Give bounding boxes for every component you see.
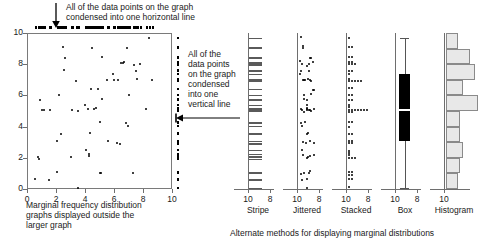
stacked-point (351, 171, 353, 173)
stacked-point (348, 80, 350, 82)
scatter-point (117, 79, 119, 81)
right-rug-tick (177, 56, 179, 58)
scatter-point (101, 56, 103, 58)
scatter-point (100, 172, 102, 174)
figure-root: All of the data points on the graph cond… (0, 0, 486, 249)
stripe-mark (249, 134, 262, 135)
y-tick-label: 8 (0, 58, 23, 68)
jittered-point (304, 121, 306, 123)
panel-tick-label: 10 (385, 194, 405, 204)
jittered-point (302, 47, 304, 49)
panel-content-stacked (347, 33, 387, 189)
histogram-bar (446, 64, 475, 80)
scatter-point (43, 109, 45, 111)
stacked-point (348, 104, 350, 106)
panel-axis-tick (297, 189, 298, 193)
y-tick-label: 0 (0, 183, 23, 193)
x-tick-label: 10 (162, 194, 182, 204)
stripe-mark (249, 141, 262, 142)
stacked-point (348, 140, 350, 142)
top-rug-tick (108, 26, 110, 29)
stacked-point (360, 80, 362, 82)
stacked-point (348, 78, 350, 80)
stacked-point (351, 109, 353, 111)
panel-tick-label: 8 (260, 194, 280, 204)
scatter-point (125, 122, 127, 124)
stacked-point (351, 178, 353, 180)
scatter-point (85, 149, 87, 151)
scatter-point (91, 47, 93, 49)
scatter-point (133, 64, 135, 66)
stacked-point (348, 152, 350, 154)
panel-tick-label: 8 (407, 194, 427, 204)
jittered-point (302, 45, 304, 47)
panel-axis-tick (346, 189, 347, 193)
top-rug-tick (152, 26, 154, 29)
stripe-mark (249, 188, 262, 189)
stacked-point (348, 94, 350, 96)
scatter-point (107, 140, 109, 142)
histogram-bar (446, 95, 478, 111)
histogram-bar (446, 80, 463, 96)
right-rug-tick (177, 153, 179, 155)
scatter-point (63, 69, 65, 71)
stacked-point (351, 111, 353, 113)
scatter-point (84, 104, 86, 106)
scatter-point (123, 61, 125, 63)
jittered-point (303, 172, 305, 174)
top-rug-tick (102, 26, 104, 29)
box-whisker-cap (400, 188, 409, 189)
top-rug-tick (44, 26, 46, 29)
stacked-point (348, 99, 350, 101)
jittered-point (300, 173, 302, 175)
scatter-point (87, 108, 89, 110)
scatter-point (34, 178, 36, 180)
panel-horizontal-axis (430, 189, 470, 190)
scatter-point (77, 187, 79, 189)
scatter-point (89, 132, 91, 134)
y-tick-label: 4 (0, 121, 23, 131)
stacked-point (351, 56, 353, 58)
stripe-mark (249, 95, 262, 96)
scatter-point (148, 37, 150, 39)
right-rug-tick (177, 140, 179, 142)
histogram-bar (446, 158, 460, 174)
jittered-point (305, 142, 307, 144)
y-tick-label: 2 (0, 152, 23, 162)
jittered-point (313, 154, 315, 156)
jittered-point (301, 179, 303, 181)
panel-tick-label: 8 (358, 194, 378, 204)
scatter-point (39, 99, 41, 101)
right-rug-tick (177, 98, 179, 100)
box-body (399, 74, 410, 141)
panel-tick-label: 8 (309, 194, 329, 204)
scatter-point (56, 171, 58, 173)
top-rug-tick (149, 26, 151, 29)
stacked-point (348, 56, 350, 58)
top-rug-tick (140, 26, 142, 29)
jittered-point (308, 63, 310, 65)
jittered-point (301, 63, 303, 65)
stripe-mark (249, 159, 262, 160)
panel-horizontal-axis (332, 189, 372, 190)
scatter-point (95, 107, 97, 109)
right-rug-tick (177, 69, 179, 71)
stripe-mark (249, 70, 262, 71)
jittered-point (306, 99, 308, 101)
right-rug-tick (177, 149, 179, 151)
stacked-point (351, 174, 353, 176)
x-tick-mark (172, 189, 173, 193)
panel-horizontal-axis (283, 189, 323, 190)
jittered-point (301, 125, 303, 127)
top-marginal-rug (27, 24, 172, 32)
stacked-point (348, 150, 350, 152)
right-rug-tick (177, 37, 179, 39)
right-rug-tick (177, 61, 179, 63)
scatter-point (151, 79, 153, 81)
panel-jittered: 108Jittered (289, 24, 338, 194)
stacked-point (354, 80, 356, 82)
scatter-point (88, 153, 90, 155)
panel-tick-label: 10 (434, 194, 454, 204)
stacked-point (348, 111, 350, 113)
jittered-point (299, 73, 301, 75)
